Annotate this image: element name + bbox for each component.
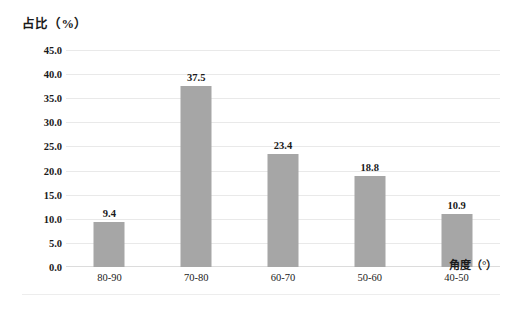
bar-value-label: 23.4 [274,140,292,151]
y-tick-label: 5.0 [22,237,62,248]
x-axis-title: 角度（°） [449,256,497,272]
x-tick-label: 60-70 [271,272,296,283]
y-tick-label: 15.0 [22,189,62,200]
bar-slot: 37.5 [153,50,240,267]
y-tick-label: 40.0 [22,69,62,80]
bars-layer: 9.4 37.5 23.4 18.8 10.9 [66,50,500,267]
bottom-divider [22,294,500,295]
bar-slot: 18.8 [326,50,413,267]
bar[interactable] [267,154,298,267]
y-tick-label: 10.0 [22,213,62,224]
bar-slot: 9.4 [66,50,153,267]
bar-value-label: 18.8 [361,162,379,173]
x-tick-label: 80-90 [97,272,122,283]
bar-value-label: 9.4 [103,208,116,219]
x-tick-label: 40-50 [444,272,469,283]
y-axis-title: 占比（%） [22,13,88,32]
bar-slot: 10.9 [413,50,500,267]
x-tick-label: 50-60 [358,272,383,283]
y-axis-ticks: 45.0 40.0 35.0 30.0 25.0 20.0 15.0 10.0 … [18,50,62,267]
y-tick-label: 30.0 [22,117,62,128]
y-tick-label: 35.0 [22,93,62,104]
x-tick-label: 70-80 [184,272,209,283]
bar[interactable] [181,86,212,267]
bar-chart: 占比（%） 45.0 40.0 35.0 30.0 25.0 20.0 15.0… [0,0,512,310]
y-tick-label: 20.0 [22,165,62,176]
bar-value-label: 10.9 [447,200,465,211]
bar-value-label: 37.5 [187,72,205,83]
y-tick-label: 0.0 [22,262,62,273]
bar[interactable] [354,176,385,267]
x-axis-categories: 80-90 70-80 60-70 50-60 40-50 [66,272,500,288]
y-tick-label: 45.0 [22,45,62,56]
bar[interactable] [94,222,125,267]
bar-slot: 23.4 [240,50,327,267]
y-tick-label: 25.0 [22,141,62,152]
